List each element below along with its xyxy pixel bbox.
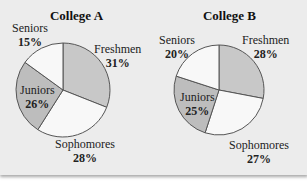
label-juniors: Juniors 25%: [180, 90, 215, 118]
label-freshmen: Freshmen 31%: [94, 42, 141, 70]
label-sophomores: Sophomores 27%: [229, 138, 289, 166]
pie-chart-college-a: College A Seniors 15% Freshmen 31% Junio…: [0, 0, 153, 175]
label-juniors: Juniors 26%: [20, 83, 55, 111]
label-sophomores: Sophomores 28%: [55, 137, 115, 165]
label-seniors: Seniors 15%: [12, 21, 48, 49]
label-freshmen: Freshmen 28%: [242, 33, 289, 61]
chart-panel: College A Seniors 15% Freshmen 31% Junio…: [0, 0, 307, 175]
pie-chart-college-b: College B Seniors 20% Freshmen 28% Junio…: [153, 0, 306, 175]
label-seniors: Seniors 20%: [159, 33, 195, 61]
